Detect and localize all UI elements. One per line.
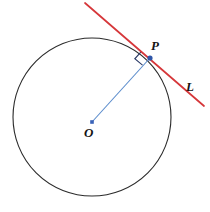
tangent-point-marker	[147, 55, 152, 60]
center-point-marker	[90, 120, 94, 124]
radius-segment	[92, 58, 150, 122]
tangent-line-label: L	[186, 80, 194, 93]
geometry-canvas	[0, 0, 210, 212]
geometry-figure: O P L	[0, 0, 210, 212]
tangent-point-label: P	[151, 39, 159, 52]
center-label: O	[84, 126, 93, 139]
